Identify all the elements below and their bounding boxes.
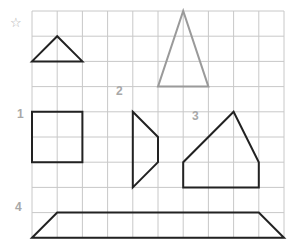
shape-2-quadrilateral — [133, 112, 158, 188]
grid-canvas — [0, 0, 297, 246]
shape-3-pentagon — [183, 112, 259, 188]
shape-label-4: 4 — [15, 200, 22, 214]
shape-label-3: 3 — [192, 109, 199, 123]
star-outline-icon: ☆ — [10, 15, 22, 30]
shape-label-1: 1 — [17, 107, 24, 121]
shape-label-2: 2 — [116, 84, 123, 98]
